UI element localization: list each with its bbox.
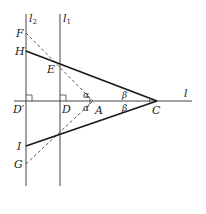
right-angle-d-prime [26,95,32,101]
label-point-C: C [152,104,161,117]
label-point-A: A [94,104,103,117]
label-point-D: D [61,103,71,116]
label-l2: l2 [29,12,37,26]
label-angle-beta-top: β [121,90,127,100]
label-point-D-prime: D′ [12,103,25,116]
label-angle-alpha-bottom: α [83,103,89,113]
label-l1: l1 [63,12,71,26]
geometry-diagram: l2 l1 l F H E D′ D A C I G α α β β [0,0,206,214]
label-point-H: H [14,45,25,58]
label-l: l [184,87,188,100]
label-point-F: F [15,27,24,40]
label-point-G: G [14,158,23,171]
label-angle-alpha-top: α [83,90,89,100]
right-angle-d [60,95,66,101]
label-angle-beta-bottom: β [121,103,127,113]
bold-line-IC [26,101,157,146]
bold-line-HC [26,51,157,101]
label-point-E: E [46,63,55,76]
label-point-I: I [16,140,22,153]
